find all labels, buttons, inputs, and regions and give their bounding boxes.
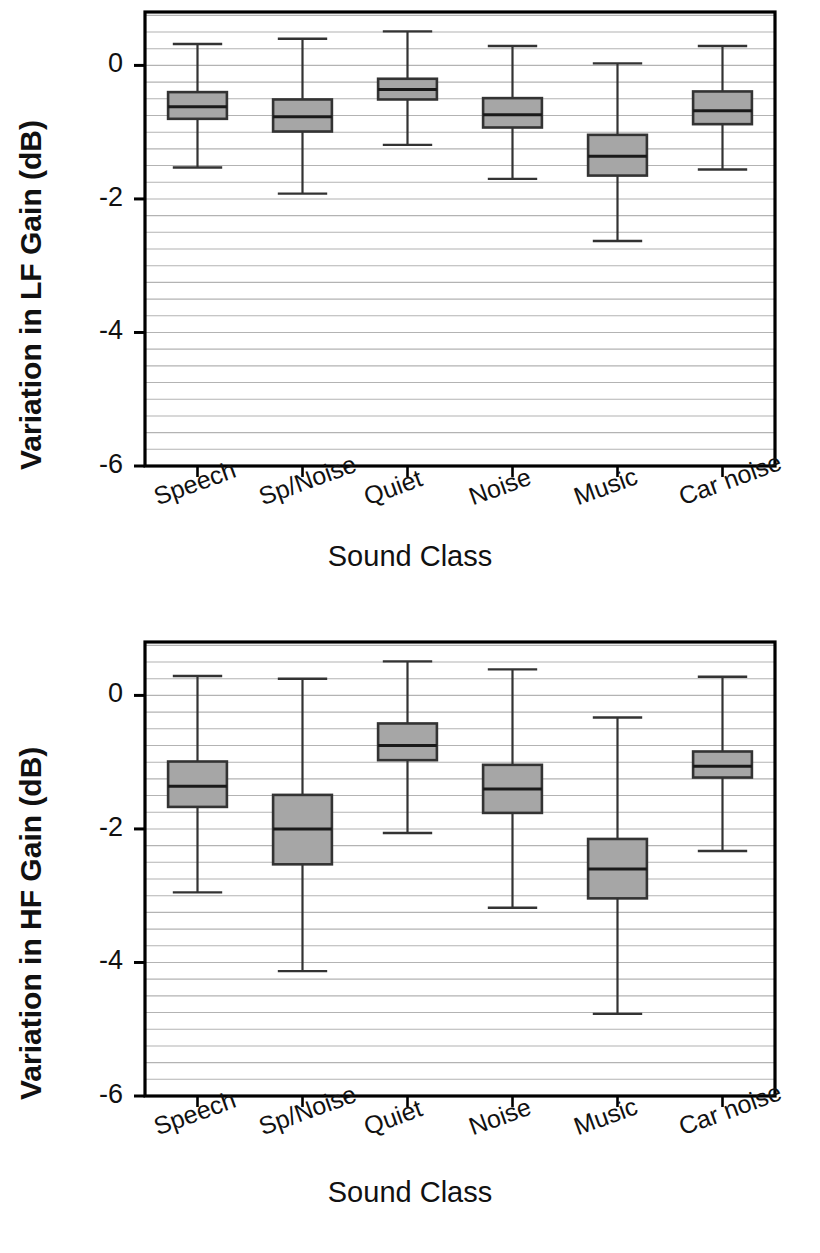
box-iqr (693, 91, 752, 124)
box-iqr (378, 723, 437, 760)
hf-gain-figure: Variation in HF Gain (dB) Sound Class 0-… (0, 620, 820, 1253)
box-iqr (483, 98, 542, 127)
hf-x-axis-label: Sound Class (0, 1176, 820, 1209)
y-axis-tick-label: -6 (75, 449, 123, 480)
plot-background (145, 12, 775, 466)
y-axis-tick-label: -4 (75, 945, 123, 976)
y-axis-tick-label: -2 (75, 812, 123, 843)
lf-gain-figure: Variation in LF Gain (dB) Sound Class 0-… (0, 0, 820, 620)
box-iqr (168, 762, 227, 807)
box-iqr (693, 751, 752, 777)
lf-boxplot-svg (0, 0, 820, 480)
y-axis-tick-label: -4 (75, 315, 123, 346)
y-axis-tick-label: -2 (75, 182, 123, 213)
lf-plot-area: Variation in LF Gain (dB) Sound Class 0-… (0, 0, 820, 620)
hf-plot-area: Variation in HF Gain (dB) Sound Class 0-… (0, 620, 820, 1253)
y-axis-tick-label: 0 (75, 48, 123, 79)
plot-background (145, 642, 775, 1096)
hf-boxplot-svg (0, 630, 820, 1120)
y-axis-tick-label: -6 (75, 1079, 123, 1110)
lf-x-axis-label: Sound Class (0, 540, 820, 573)
y-axis-tick-label: 0 (75, 678, 123, 709)
